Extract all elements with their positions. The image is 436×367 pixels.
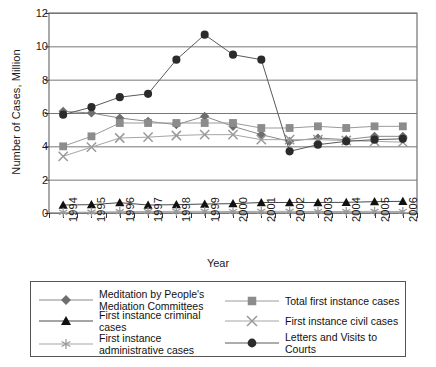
x-tick-label: 1997 (152, 197, 164, 222)
legend-total-first-instance[interactable]: Total first instance cases (223, 292, 405, 310)
legend-marker-circle-icon (223, 333, 281, 353)
plot-area: Number of Cases, Million 024681012 19941… (0, 0, 436, 270)
data-point-square (248, 297, 257, 306)
legend-marker-asterisk-icon (37, 334, 95, 354)
x-tick-label: 2000 (237, 197, 249, 222)
x-tick-label: 2005 (379, 197, 391, 222)
x-tick-label: 1994 (67, 197, 79, 222)
legend-marker-triangle-icon (37, 311, 95, 331)
x-tick-label: 1995 (95, 197, 107, 222)
legend-label: Letters and Visits to Courts (281, 331, 405, 355)
legend-marker-square-icon (223, 291, 281, 311)
x-tick-label: 1998 (180, 197, 192, 222)
legend-administrative[interactable]: First instance administrative cases (37, 332, 217, 356)
legend-label: First instance criminal cases (95, 309, 217, 333)
legend-civil[interactable]: First instance civil cases (223, 312, 405, 330)
x-tick-label: 2004 (350, 197, 362, 222)
x-tick-label: 1999 (209, 197, 221, 222)
x-axis-ticks: 1994199519961997199819992000200120022003… (0, 0, 436, 270)
data-point-diamond (61, 295, 71, 305)
legend-label: First instance administrative cases (95, 332, 217, 356)
legend-criminal[interactable]: First instance criminal cases (37, 312, 217, 330)
x-tick-label: 2003 (322, 197, 334, 222)
legend-letters-visits[interactable]: Letters and Visits to Courts (223, 334, 405, 352)
data-point-circle (248, 339, 257, 348)
x-tick-label: 2001 (265, 197, 277, 222)
chart-figure: Number of Cases, Million 024681012 19941… (0, 0, 436, 367)
legend-marker-diamond-icon (37, 290, 95, 310)
x-axis-title: Year (0, 257, 436, 269)
legend-marker-x-icon (223, 311, 281, 331)
x-tick-label: 2002 (294, 197, 306, 222)
x-tick-label: 2006 (407, 197, 419, 222)
legend-label: Total first instance cases (281, 295, 399, 307)
legend-label: First instance civil cases (281, 315, 398, 327)
x-tick-label: 1996 (124, 197, 136, 222)
chart-legend: Meditation by People's Mediation Committ… (30, 281, 406, 357)
